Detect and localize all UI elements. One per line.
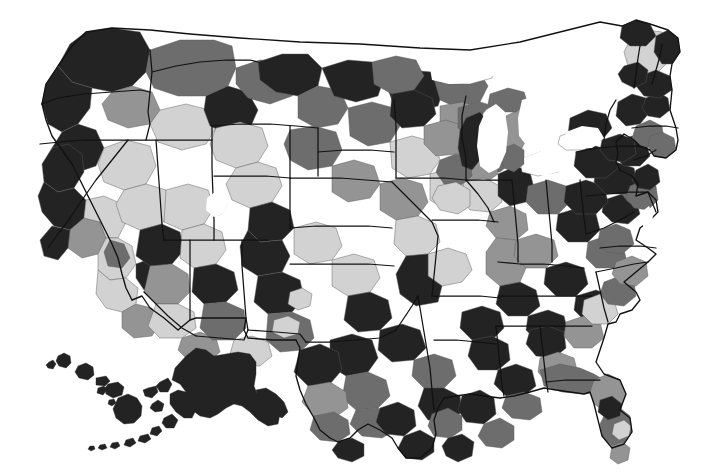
- alaska-aleutian-1: [156, 378, 172, 392]
- map-unit: [146, 40, 236, 96]
- alaska-aleutian-3: [150, 400, 164, 412]
- map-unit: [442, 434, 474, 462]
- alaska-aleutian-4: [162, 414, 178, 428]
- hawaii-niihau: [46, 360, 56, 369]
- map-unit: [200, 302, 246, 340]
- map-unit: [412, 354, 456, 388]
- hawaii-big-island: [113, 394, 142, 424]
- alaska-aleutian-6: [138, 434, 151, 443]
- hawaii-maui: [105, 382, 124, 398]
- alaska-aleutian-8: [110, 442, 120, 449]
- map-unit: [342, 372, 390, 410]
- alaska-aleutian-5: [150, 426, 162, 436]
- alaska-aleutian-9: [98, 444, 107, 450]
- hawaii-kauai: [56, 353, 71, 368]
- alaska-aleutian-7: [124, 438, 136, 447]
- water-chesapeake-bay: [642, 206, 653, 232]
- choropleth-map-figure: [0, 0, 716, 473]
- inset-hawaii: [46, 353, 142, 424]
- alaska-aleutian-2: [143, 386, 158, 398]
- map-unit: [302, 382, 348, 418]
- alaska-aleutian-10: [88, 446, 95, 451]
- map-unit: [378, 324, 426, 362]
- us-map-svg: [0, 0, 716, 473]
- hawaii-oahu: [75, 363, 94, 380]
- map-unit: [40, 226, 70, 260]
